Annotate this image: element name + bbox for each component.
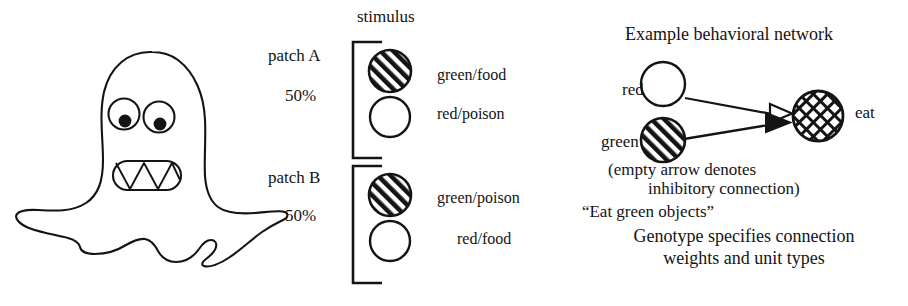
patch-b-label: patch B [268,169,320,186]
creature-left-pupil [119,115,132,128]
creature-right-pupil [154,118,167,131]
patch-a-item-1-label: red/poison [437,106,505,122]
node-red-label: red [622,81,644,98]
patch-a-red-circle [370,97,410,137]
connection-green-to-eat [684,113,790,139]
figure-canvas: stimulus patch A 50% green/food red/pois… [0,0,908,306]
patch-b-probability: 50% [285,207,316,224]
network-caption-line-2: inhibitory connection) [648,180,800,198]
network-caption-line-4: Genotype specifies connection [634,227,855,246]
creature-teeth [116,163,180,189]
patch-b-item-1-label: red/food [457,231,511,247]
connection-red-to-eat-line [685,98,772,114]
node-green [641,118,685,162]
patch-b-red-circle [370,221,410,261]
creature-body-outline [16,52,287,267]
patch-a-item-0-label: green/food [437,67,506,83]
node-eat-label: eat [855,104,875,121]
network-title: Example behavioral network [625,25,833,43]
patch-a-probability: 50% [285,87,316,104]
patch-b-green-circle [369,174,411,216]
patch-a-label: patch A [268,47,320,64]
stimulus-header: stimulus [357,8,415,25]
patch-a-green-circle [369,50,411,92]
patch-b-item-0-label: green/poison [437,190,520,206]
node-eat [793,91,843,141]
network-caption-line-5: weights and unit types [663,249,824,268]
connection-green-to-eat-line [684,124,775,139]
creature-mouth [113,161,181,190]
network-caption-line-3: “Eat green objects” [582,203,714,221]
node-green-label: green [601,133,639,150]
network-caption-line-1: (empty arrow denotes [608,161,756,179]
node-red [641,62,685,106]
